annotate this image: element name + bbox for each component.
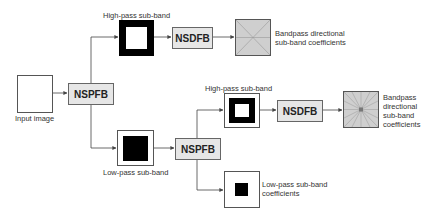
bandpass-1-label: Bandpass directional sub-band coefficien…	[275, 29, 346, 47]
nsdfb-block-1: NSDFB	[172, 27, 213, 49]
bandpass-2-image	[343, 91, 379, 128]
bandpass-1-image	[235, 19, 271, 56]
lowpass-1-core	[123, 136, 148, 161]
input-image-box	[17, 75, 53, 113]
highpass-2-ring	[229, 98, 255, 123]
lowpass-2-core	[235, 183, 248, 196]
directional-lines-icon	[344, 92, 378, 127]
highpass-1-image	[119, 20, 154, 56]
highpass-2-label: High-pass sub-band	[205, 84, 272, 93]
nsdfb-1-label: NSDFB	[175, 33, 209, 44]
nsdfb-2-label: NSDFB	[283, 106, 317, 117]
bandpass-2-label: Bandpass directional sub-band coefficien…	[383, 93, 420, 129]
nspfb-block-1: NSPFB	[68, 83, 114, 105]
nsdfb-block-2: NSDFB	[277, 100, 323, 122]
lowpass-1-image	[117, 130, 154, 166]
input-image-label: Input image	[15, 114, 54, 123]
highpass-1-label: High-pass sub-band	[103, 11, 170, 20]
nspfb-block-2: NSPFB	[175, 138, 221, 160]
nspfb-1-label: NSPFB	[74, 89, 108, 100]
lowpass-2-label: Low-pass sub-band coefficients	[262, 180, 327, 198]
directional-lines-icon	[236, 20, 270, 55]
lowpass-2-image	[224, 171, 260, 208]
lowpass-1-label: Low-pass sub-band	[103, 168, 168, 177]
nspfb-2-label: NSPFB	[181, 144, 215, 155]
highpass-2-image	[224, 93, 260, 128]
